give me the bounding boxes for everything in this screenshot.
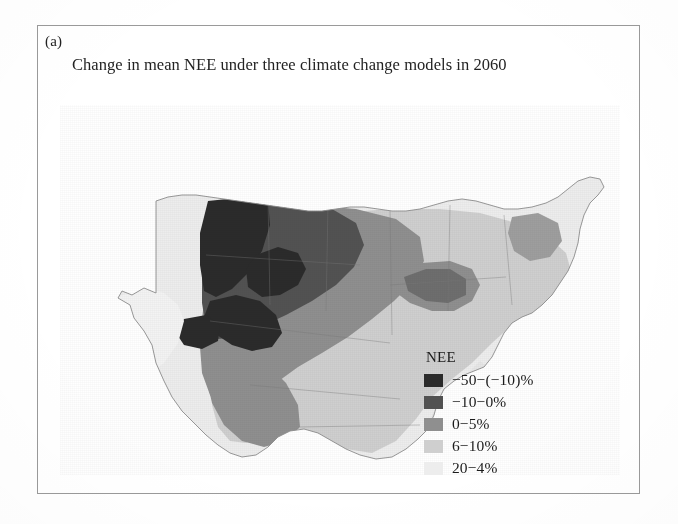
legend-item: 20−4%	[424, 457, 584, 479]
legend-item-label: 6−10%	[452, 438, 497, 454]
map-legend: NEE −50−(−10)% −10−0% 0−5% 6−10% 20−4%	[424, 349, 584, 479]
legend-swatch-icon	[424, 440, 443, 453]
legend-swatch-icon	[424, 462, 443, 475]
figure-title: Change in mean NEE under three climate c…	[72, 55, 592, 75]
legend-item: −10−0%	[424, 391, 584, 413]
legend-item-label: 0−5%	[452, 416, 490, 432]
panel-label: (a)	[45, 33, 62, 50]
legend-title: NEE	[426, 349, 584, 365]
legend-swatch-icon	[424, 396, 443, 409]
legend-swatch-icon	[424, 374, 443, 387]
legend-item: 0−5%	[424, 413, 584, 435]
legend-item-label: −10−0%	[452, 394, 506, 410]
legend-item: −50−(−10)%	[424, 369, 584, 391]
legend-item-label: 20−4%	[452, 460, 497, 476]
figure-root: (a) Change in mean NEE under three clima…	[0, 0, 678, 524]
legend-item: 6−10%	[424, 435, 584, 457]
legend-swatch-icon	[424, 418, 443, 431]
legend-item-label: −50−(−10)%	[452, 372, 533, 388]
